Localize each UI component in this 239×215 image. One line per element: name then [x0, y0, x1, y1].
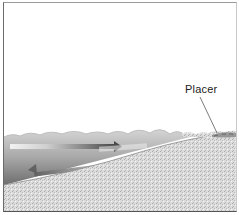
beach-cross-section: [4, 3, 237, 212]
diagram-frame: Placer: [3, 2, 237, 212]
placer-leader-line: [200, 97, 217, 133]
placer-label: Placer: [185, 83, 217, 95]
